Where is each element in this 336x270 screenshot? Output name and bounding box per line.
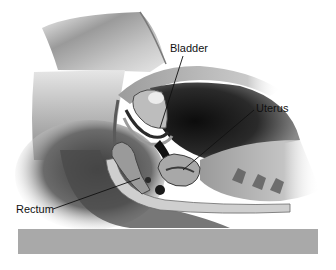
label-uterus: Uterus [256, 102, 288, 114]
base-table-surface [18, 229, 318, 254]
label-bladder: Bladder [170, 42, 208, 54]
upper-thigh [42, 12, 165, 72]
label-rectum: Rectum [16, 203, 54, 215]
